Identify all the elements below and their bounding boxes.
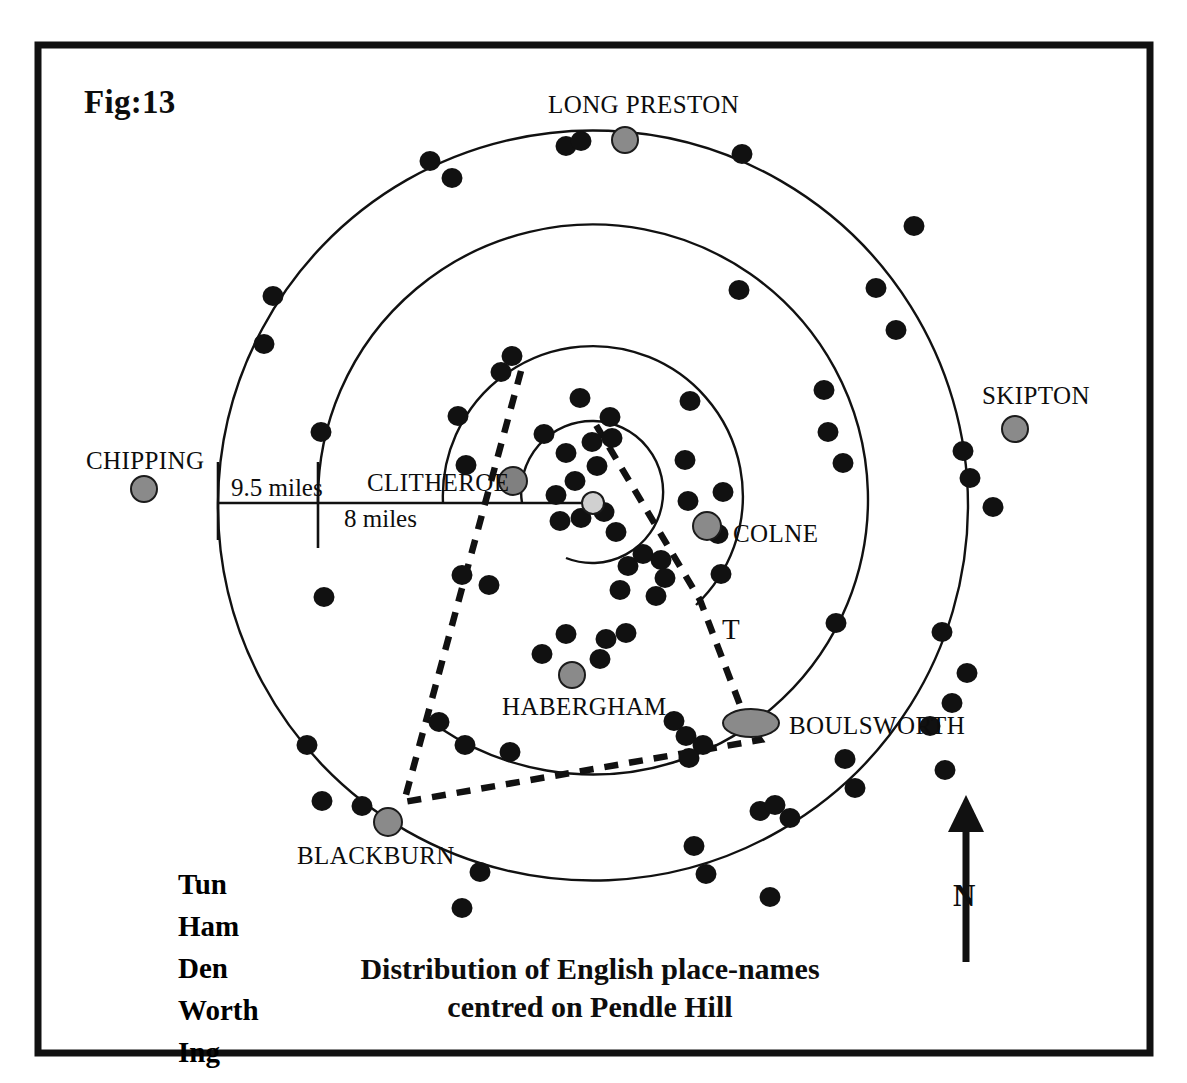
place-name-dot <box>651 550 672 570</box>
place-name-dot <box>814 380 835 400</box>
place-name-dot <box>314 587 335 607</box>
place-name-dot <box>352 796 373 816</box>
territory-marker-label: T <box>722 615 740 644</box>
place-name-dot <box>565 471 586 491</box>
place-name-dot <box>679 748 700 768</box>
place-name-dot <box>571 131 592 151</box>
place-name-dot <box>760 887 781 907</box>
settlement-label-boulsworth: BOULSWORTH <box>789 713 965 738</box>
settlement-marker-boulsworth <box>723 709 779 737</box>
settlement-marker-chipping <box>131 476 157 502</box>
place-name-dot <box>684 836 705 856</box>
place-name-dot <box>935 760 956 780</box>
settlement-label-long-preston: LONG PRESTON <box>548 92 739 117</box>
place-name-dot <box>602 428 623 448</box>
place-name-dot <box>587 456 608 476</box>
place-name-dot <box>546 485 567 505</box>
settlement-marker-skipton <box>1002 416 1028 442</box>
scale-label-9-5-miles: 9.5 miles <box>231 475 323 500</box>
legend-item-ham: Ham <box>178 910 259 943</box>
place-name-dot <box>610 580 631 600</box>
place-name-dot <box>470 862 491 882</box>
place-name-dot <box>532 644 553 664</box>
place-name-dot <box>818 422 839 442</box>
legend-item-worth: Worth <box>178 994 259 1027</box>
settlement-marker-habergham <box>559 662 585 688</box>
figure-root: Fig:13 9.5 miles 8 miles LONG PRESTON SK… <box>0 0 1187 1083</box>
place-name-dot <box>866 278 887 298</box>
place-name-dot <box>297 735 318 755</box>
legend-item-den: Den <box>178 952 259 985</box>
place-name-dot <box>932 622 953 642</box>
place-name-dot <box>957 663 978 683</box>
place-name-dot <box>556 443 577 463</box>
legend-list: Tun Ham Den Worth Ing <box>178 868 259 1078</box>
place-name-dot <box>729 280 750 300</box>
place-name-dot <box>960 468 981 488</box>
place-name-dot <box>550 511 571 531</box>
place-name-dot <box>732 144 753 164</box>
place-name-dot <box>713 482 734 502</box>
place-name-dot <box>606 522 627 542</box>
place-name-dot <box>886 320 907 340</box>
place-name-dot <box>429 712 450 732</box>
settlement-marker-blackburn <box>374 808 402 836</box>
place-name-dot <box>983 497 1004 517</box>
place-name-dot <box>311 422 332 442</box>
settlement-label-habergham: HABERGHAM <box>502 694 667 719</box>
place-name-dot <box>633 544 654 564</box>
place-name-dot <box>570 388 591 408</box>
place-name-dot <box>442 168 463 188</box>
place-name-dot <box>780 808 801 828</box>
place-name-dot <box>711 564 732 584</box>
place-name-dot <box>534 424 555 444</box>
legend-item-ing: Ing <box>178 1036 259 1069</box>
place-name-dot <box>675 450 696 470</box>
figure-caption: Distribution of English place-names cent… <box>310 950 870 1027</box>
settlement-label-chipping: CHIPPING <box>86 448 205 473</box>
place-name-dot <box>835 749 856 769</box>
settlement-marker-colne <box>693 512 721 540</box>
place-name-dot <box>616 623 637 643</box>
place-name-dot <box>590 649 611 669</box>
place-name-dot <box>420 151 441 171</box>
place-name-dot <box>904 216 925 236</box>
place-name-dot <box>826 613 847 633</box>
place-name-dot <box>452 898 473 918</box>
place-name-dot <box>263 286 284 306</box>
place-name-dot <box>479 575 500 595</box>
figure-number-label: Fig:13 <box>84 86 176 119</box>
place-name-dot <box>845 778 866 798</box>
settlement-marker-long-preston <box>612 127 638 153</box>
caption-line-2: centred on Pendle Hill <box>310 988 870 1026</box>
place-name-dot <box>942 693 963 713</box>
caption-line-1: Distribution of English place-names <box>310 950 870 988</box>
place-name-dot <box>600 407 621 427</box>
place-name-dot <box>582 432 603 452</box>
place-name-dot <box>455 735 476 755</box>
place-name-dot <box>500 742 521 762</box>
place-name-dot <box>655 568 676 588</box>
compass-north-label: N <box>953 880 975 911</box>
centre-marker-pendle-hill <box>582 492 604 514</box>
place-name-dot <box>452 565 473 585</box>
place-name-dot <box>254 334 275 354</box>
place-name-dot <box>312 791 333 811</box>
place-name-dot <box>953 441 974 461</box>
place-name-dot <box>646 586 667 606</box>
legend-item-tun: Tun <box>178 868 259 901</box>
place-name-dot <box>596 629 617 649</box>
settlement-label-skipton: SKIPTON <box>982 383 1090 408</box>
settlement-label-colne: COLNE <box>733 521 818 546</box>
scale-label-8-miles: 8 miles <box>344 506 417 531</box>
settlement-label-clitheroe: CLITHEROE <box>367 470 509 495</box>
place-name-dot <box>680 391 701 411</box>
place-name-dot <box>556 624 577 644</box>
settlement-label-blackburn: BLACKBURN <box>297 843 455 868</box>
place-name-dot <box>696 864 717 884</box>
place-name-dot <box>678 491 699 511</box>
place-name-dot <box>833 453 854 473</box>
place-name-dot <box>448 406 469 426</box>
place-name-dot <box>491 362 512 382</box>
